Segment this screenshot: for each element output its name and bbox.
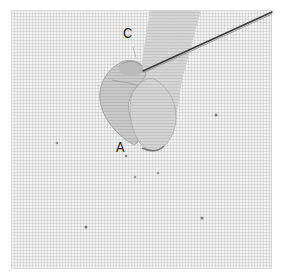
embroidery-photo: C A [0,0,283,275]
ribbon-illustration [0,0,283,275]
point-label-c: C [123,25,132,40]
point-label-a: A [116,139,125,154]
